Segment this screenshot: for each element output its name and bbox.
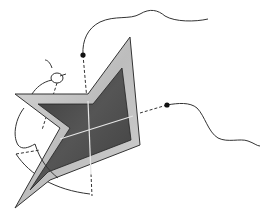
- top-anchor-dot: [80, 52, 85, 57]
- diagram-canvas: [0, 0, 270, 219]
- right-anchor-dot: [164, 102, 169, 107]
- top-string: [80, 10, 208, 57]
- right-string: [164, 102, 260, 146]
- star-plate-inner: [30, 68, 131, 190]
